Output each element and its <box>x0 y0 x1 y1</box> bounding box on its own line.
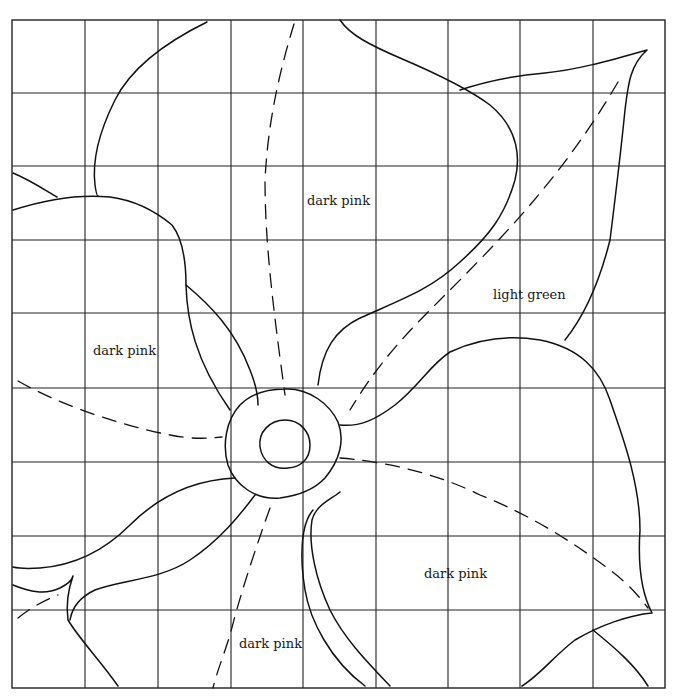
right-petal-outline <box>302 338 652 686</box>
label-left-petal: dark pink <box>93 343 156 358</box>
left-petal-outline <box>13 173 230 438</box>
pattern-canvas: dark pink light green dark pink dark pin… <box>0 0 676 698</box>
label-leaf: light green <box>493 287 566 302</box>
flower-center <box>225 389 341 498</box>
label-bottom-petal: dark pink <box>239 636 302 651</box>
leaf-outline <box>350 50 647 410</box>
label-right-petal: dark pink <box>424 566 487 581</box>
label-top-petal: dark pink <box>307 193 370 208</box>
